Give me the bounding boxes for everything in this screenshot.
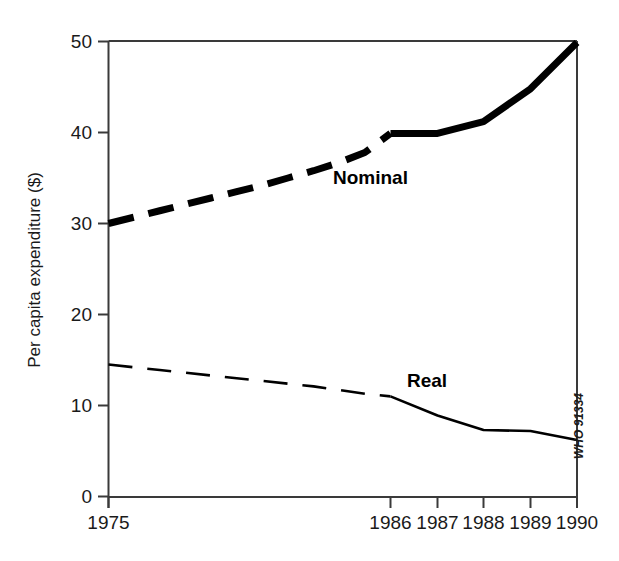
x-tick-label-1987: 1987 bbox=[416, 512, 458, 533]
y-axis-title: Per capita expenditure ($) bbox=[25, 172, 44, 368]
x-tick-label-1975: 1975 bbox=[87, 512, 129, 533]
chart-background bbox=[0, 0, 619, 561]
chart-figure: 50 40 30 20 10 0 1975 1986 1987 1988 198… bbox=[0, 0, 619, 561]
chart-svg: 50 40 30 20 10 0 1975 1986 1987 1988 198… bbox=[0, 0, 619, 561]
y-tick-label-0: 0 bbox=[81, 486, 92, 507]
x-tick-label-1989: 1989 bbox=[509, 512, 551, 533]
y-tick-label-20: 20 bbox=[71, 304, 92, 325]
y-tick-label-30: 30 bbox=[71, 213, 92, 234]
x-tick-label-1986: 1986 bbox=[369, 512, 411, 533]
x-tick-label-1990: 1990 bbox=[556, 512, 598, 533]
y-tick-label-40: 40 bbox=[71, 122, 92, 143]
real-series-label: Real bbox=[407, 370, 447, 391]
y-tick-label-50: 50 bbox=[71, 31, 92, 52]
x-tick-label-1988: 1988 bbox=[462, 512, 504, 533]
y-tick-label-10: 10 bbox=[71, 395, 92, 416]
who-credit-label: WHO 91334 bbox=[572, 393, 586, 459]
nominal-series-label: Nominal bbox=[333, 167, 408, 188]
